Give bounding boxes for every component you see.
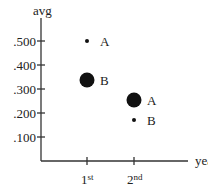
point-2nd-B	[132, 118, 136, 122]
point-1st-B	[80, 73, 95, 88]
label-1st-A: A	[100, 35, 109, 48]
point-1st-A	[85, 39, 89, 43]
y-tick-400: .400	[0, 59, 36, 72]
x-tick-1st: 1st	[81, 173, 94, 186]
x-axis-label: year	[195, 154, 208, 167]
label-1st-B: B	[100, 74, 109, 87]
point-2nd-A	[127, 93, 142, 108]
label-2nd-B: B	[147, 114, 156, 127]
x-tick-2nd: 2nd	[127, 173, 143, 186]
y-tick-200: .200	[0, 107, 36, 120]
label-2nd-A: A	[147, 94, 156, 107]
y-axis-label: avg	[33, 4, 52, 17]
y-tick-100: .100	[0, 131, 36, 144]
y-tick-500: .500	[0, 35, 36, 48]
y-tick-300: .300	[0, 83, 36, 96]
